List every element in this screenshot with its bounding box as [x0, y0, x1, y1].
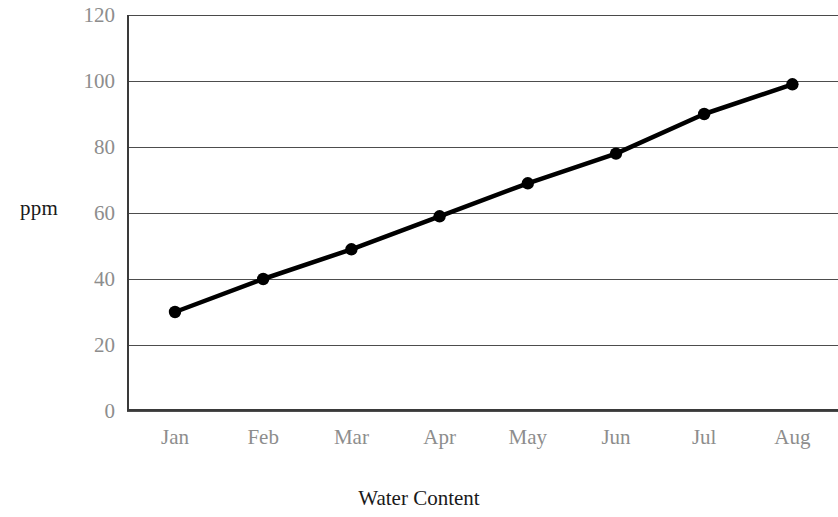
data-point — [345, 243, 357, 255]
y-tick-label: 60 — [60, 203, 115, 224]
plot-area — [127, 15, 838, 411]
data-point — [610, 147, 622, 159]
gridline — [127, 411, 838, 412]
line-chart-figure: ppm 0 20 40 60 80 100 120 Jan Feb Mar Ap… — [0, 0, 838, 517]
x-tick-label: Aug — [737, 425, 838, 450]
x-axis-title: Water Content — [0, 486, 838, 511]
data-point — [698, 108, 710, 120]
y-tick-label: 20 — [60, 335, 115, 356]
y-tick-label: 40 — [60, 269, 115, 290]
data-series — [127, 15, 838, 411]
data-point — [257, 273, 269, 285]
y-tick-label: 120 — [60, 5, 115, 26]
data-point — [522, 177, 534, 189]
y-tick-label: 0 — [60, 401, 115, 422]
y-tick-label: 80 — [60, 137, 115, 158]
data-point — [433, 210, 445, 222]
y-tick-label: 100 — [60, 71, 115, 92]
data-point — [169, 306, 181, 318]
data-point — [786, 78, 798, 90]
